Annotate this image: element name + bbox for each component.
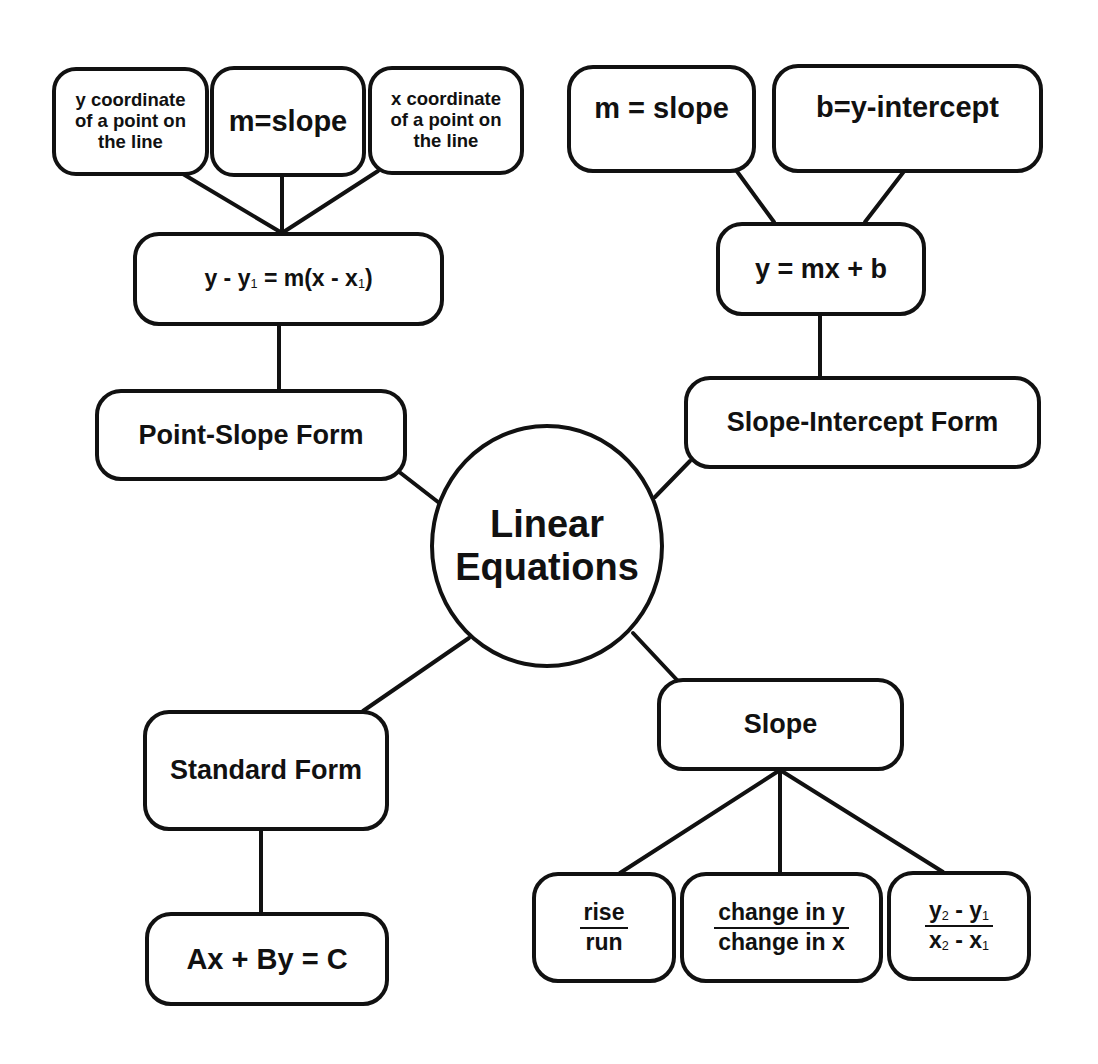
connector-mslope-ymxb xyxy=(736,170,774,222)
connector-xcoord-formula xyxy=(282,171,378,233)
standard-formula-node: Ax + By = C xyxy=(145,912,389,1006)
slope-intercept-formula: y = mx + b xyxy=(755,254,887,284)
slope-intercept-form-label: Slope-Intercept Form xyxy=(727,407,999,437)
point-slope-form-label: Point-Slope Form xyxy=(139,420,364,450)
b-intercept-label: b=y-intercept xyxy=(816,91,999,123)
connector-center-slope xyxy=(633,633,677,680)
m-slope-node-left: m=slope xyxy=(210,66,366,177)
m-slope-node-right: m = slope xyxy=(567,65,756,173)
change-node: change in y change in x xyxy=(680,872,883,983)
center-node-linear-equations: Linear Equations xyxy=(430,424,664,668)
center-label-line2: Equations xyxy=(455,546,639,589)
change-in-x-label: change in x xyxy=(714,929,849,956)
standard-form-label: Standard Form xyxy=(170,755,362,785)
connector-bint-ymxb xyxy=(865,170,905,222)
rise-label: rise xyxy=(580,900,629,929)
connector-slope-riserun xyxy=(620,770,780,873)
standard-formula: Ax + By = C xyxy=(186,943,347,975)
ycoord-line2: of a point on xyxy=(75,111,186,132)
xcoord-line3: the line xyxy=(391,131,502,152)
slope-formula-denominator: x2 - x1 xyxy=(925,927,993,954)
connector-slope-y2y1 xyxy=(780,770,943,872)
ycoord-line1: y coordinate xyxy=(75,90,186,111)
m-slope-label-right: m = slope xyxy=(594,92,729,124)
change-fraction: change in y change in x xyxy=(714,900,849,956)
run-label: run xyxy=(581,929,626,956)
xcoord-node: x coordinate of a point on the line xyxy=(368,66,524,175)
xcoord-line2: of a point on xyxy=(391,110,502,131)
slope-label: Slope xyxy=(744,709,818,739)
xcoord-line1: x coordinate xyxy=(391,89,502,110)
slope-formula-fraction: y2 - y1 x2 - x1 xyxy=(925,898,993,954)
rise-run-fraction: rise run xyxy=(580,900,629,956)
slope-formula-node: y2 - y1 x2 - x1 xyxy=(887,871,1031,981)
standard-form-node: Standard Form xyxy=(143,710,389,831)
connector-ycoord-formula xyxy=(183,174,282,233)
rise-run-node: rise run xyxy=(532,872,676,983)
point-slope-formula: y - y1 = m(x - x1) xyxy=(204,266,372,292)
change-in-y-label: change in y xyxy=(714,900,849,929)
slope-intercept-formula-node: y = mx + b xyxy=(716,222,926,316)
point-slope-form-node: Point-Slope Form xyxy=(95,389,407,481)
ycoord-line3: the line xyxy=(75,132,186,153)
point-slope-formula-node: y - y1 = m(x - x1) xyxy=(133,232,444,326)
ycoord-node: y coordinate of a point on the line xyxy=(52,67,209,176)
connector-pointslope-center xyxy=(398,471,438,502)
center-label-line1: Linear xyxy=(455,503,639,546)
slope-node: Slope xyxy=(657,678,904,771)
slope-formula-numerator: y2 - y1 xyxy=(925,898,993,927)
m-slope-label-left: m=slope xyxy=(229,105,347,137)
slope-intercept-form-node: Slope-Intercept Form xyxy=(684,376,1041,469)
b-intercept-node: b=y-intercept xyxy=(772,64,1043,173)
connector-center-standard xyxy=(363,638,469,711)
connector-slopeintercept-center xyxy=(655,461,690,497)
